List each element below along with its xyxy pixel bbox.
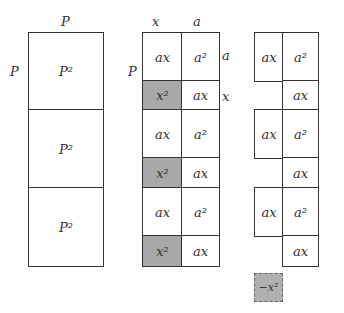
cell-ax: ax	[254, 109, 284, 159]
middle-right-label-x: x	[222, 89, 229, 104]
cell-ax: ax	[142, 32, 183, 82]
left-side-label: P	[10, 64, 19, 79]
cell-a2: a²	[282, 32, 319, 82]
removed-x2-square: −x²	[254, 273, 283, 302]
cell-ax: ax	[282, 157, 319, 189]
middle-top-label-x: x	[152, 14, 159, 29]
cell-ax: ax	[282, 235, 319, 267]
cell-x2: x²	[142, 157, 183, 189]
cell-a2: a²	[282, 109, 319, 159]
cell-a2: a²	[181, 32, 220, 82]
cell-x2: x²	[142, 80, 183, 111]
middle-right-label-a: a	[222, 48, 230, 63]
cell-ax: ax	[142, 187, 183, 237]
cell-ax: ax	[254, 187, 284, 237]
cell-ax: ax	[282, 80, 319, 111]
cell-ax: ax	[142, 109, 183, 159]
square-p2-3: P²	[28, 187, 104, 267]
middle-top-label-a: a	[193, 14, 201, 29]
cell-ax: ax	[181, 157, 220, 189]
cell-ax: ax	[181, 235, 220, 267]
cell-a2: a²	[181, 187, 220, 237]
cell-ax: ax	[254, 32, 284, 82]
cell-x2: x²	[142, 235, 183, 267]
middle-side-label: P	[128, 64, 137, 79]
cell-ax: ax	[181, 80, 220, 111]
square-p2-1: P²	[28, 32, 104, 111]
left-top-label: P	[61, 14, 70, 29]
cell-a2: a²	[181, 109, 220, 159]
square-p2-2: P²	[28, 109, 104, 189]
cell-a2: a²	[282, 187, 319, 237]
